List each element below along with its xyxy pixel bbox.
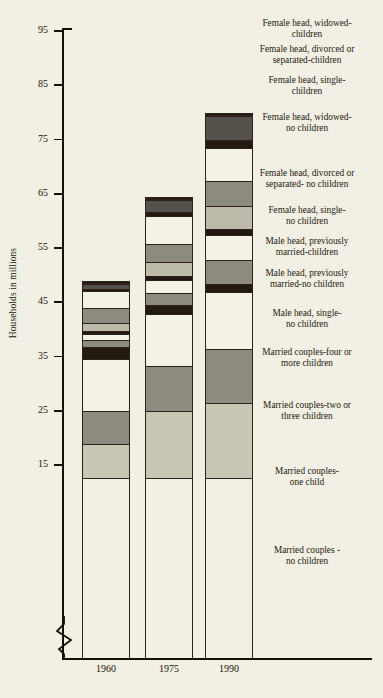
bar-segment[interactable]	[83, 444, 129, 479]
bar-segment[interactable]	[146, 200, 192, 212]
legend-label-line2: separated-children	[232, 55, 382, 66]
bar-segment[interactable]	[146, 262, 192, 276]
bar-segment[interactable]	[146, 305, 192, 314]
legend-label-line1: Married couples-	[275, 466, 339, 476]
legend-label-line1: Female head, divorced or	[260, 44, 354, 54]
y-tick-label-35: 35	[0, 350, 48, 361]
y-tick-55	[54, 247, 64, 249]
y-tick-label-45: 45	[0, 295, 48, 306]
bar-segment[interactable]	[146, 293, 192, 305]
y-tick-85	[54, 84, 64, 86]
legend-label-line2: children	[232, 29, 382, 40]
legend-label-line2: no children	[232, 556, 382, 567]
bar-segment[interactable]	[146, 314, 192, 366]
bar-segment[interactable]	[83, 323, 129, 332]
bar-segment[interactable]	[83, 291, 129, 309]
legend-item[interactable]: Married couples-four ormore children	[232, 347, 382, 369]
y-tick-label-65: 65	[0, 187, 48, 198]
y-tick-label-85: 85	[0, 78, 48, 89]
legend-label-line2: no children	[232, 319, 382, 330]
y-tick-75	[54, 139, 64, 141]
bar-segment[interactable]	[146, 280, 192, 293]
bar-segment[interactable]	[146, 244, 192, 262]
legend-item[interactable]: Female head, divorced orseparated-childr…	[232, 44, 382, 66]
y-tick-label-25: 25	[0, 404, 48, 415]
legend-label-line2: separated- no children	[232, 179, 382, 190]
bar-segment[interactable]	[146, 411, 192, 479]
legend-label-line1: Female head, single-	[268, 75, 345, 85]
bar-segment[interactable]	[83, 340, 129, 347]
y-tick-label-55: 55	[0, 241, 48, 252]
y-tick-65	[54, 193, 64, 195]
bar-1975[interactable]	[145, 197, 193, 658]
bar-segment[interactable]	[83, 411, 129, 444]
y-axis-line	[62, 28, 64, 660]
legend-item[interactable]: Female head, widowed-no children	[232, 112, 382, 134]
legend-item[interactable]: Female head, single-no children	[232, 205, 382, 227]
x-label-1990: 1990	[194, 663, 264, 674]
legend-item[interactable]: Married couples-one child	[232, 466, 382, 488]
y-tick-35	[54, 356, 64, 358]
bar-segment[interactable]	[83, 308, 129, 322]
legend: Female head, widowed-childrenFemale head…	[232, 0, 382, 660]
bar-segment[interactable]	[83, 359, 129, 411]
legend-label-line2: married-children	[232, 247, 382, 258]
bar-segment[interactable]	[146, 366, 192, 412]
legend-item[interactable]: Male head, single-no children	[232, 308, 382, 330]
legend-label-line1: Female head, widowed-	[262, 112, 351, 122]
legend-label-line2: no children	[232, 216, 382, 227]
y-tick-label-95: 95	[0, 24, 48, 35]
legend-label-line2: no children	[232, 123, 382, 134]
legend-label-line1: Married couples -	[274, 545, 340, 555]
bar-1960[interactable]	[82, 281, 130, 658]
legend-label-line2: married-no children	[232, 279, 382, 290]
stacked-bar-chart: Households in millions 95857565554535251…	[0, 0, 383, 698]
legend-label-line1: Married couples-four or	[262, 347, 351, 357]
legend-label-line1: Female head, divorced or	[260, 168, 354, 178]
y-tick-45	[54, 301, 64, 303]
legend-item[interactable]: Male head, previouslymarried-no children	[232, 268, 382, 290]
legend-label-line1: Male head, previously	[266, 236, 349, 246]
y-tick-label-75: 75	[0, 133, 48, 144]
y-tick-25	[54, 410, 64, 412]
x-label-1960: 1960	[71, 663, 141, 674]
legend-item[interactable]: Female head, single-children	[232, 75, 382, 97]
legend-label-line1: Female head, widowed-	[262, 18, 351, 28]
legend-item[interactable]: Married couples -no children	[232, 545, 382, 567]
bar-segment[interactable]	[83, 347, 129, 359]
legend-label-line1: Married couples-two or	[263, 400, 351, 410]
legend-item[interactable]: Married couples-two orthree children	[232, 400, 382, 422]
legend-label-line2: children	[232, 86, 382, 97]
legend-label-line2: one child	[232, 477, 382, 488]
y-tick-15	[54, 464, 64, 466]
y-tick-label-15: 15	[0, 458, 48, 469]
legend-item[interactable]: Female head, widowed-children	[232, 18, 382, 40]
legend-label-line1: Female head, single-	[268, 205, 345, 215]
legend-label-line2: three children	[232, 411, 382, 422]
bar-segment[interactable]	[146, 216, 192, 244]
legend-label-line2: more children	[232, 358, 382, 369]
legend-item[interactable]: Female head, divorced orseparated- no ch…	[232, 168, 382, 190]
legend-label-line1: Male head, previously	[266, 268, 349, 278]
y-tick-95	[54, 30, 64, 32]
legend-item[interactable]: Male head, previouslymarried-children	[232, 236, 382, 258]
axis-break-zigzag	[55, 616, 73, 660]
legend-label-line1: Male head, single-	[273, 308, 342, 318]
